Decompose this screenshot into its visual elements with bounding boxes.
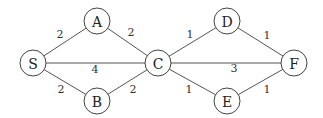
- edge-weight-a-c: 2: [128, 26, 135, 39]
- node-a: A: [84, 8, 110, 34]
- node-s: S: [20, 50, 46, 76]
- node-b: B: [84, 88, 110, 114]
- node-label: F: [289, 56, 299, 72]
- edge-weight-d-f: 1: [264, 29, 271, 42]
- edge-weight-s-c: 4: [92, 63, 99, 76]
- node-label: D: [221, 14, 232, 30]
- edge-weight-s-a: 2: [57, 28, 64, 41]
- node-label: B: [92, 94, 102, 110]
- node-c: C: [145, 50, 171, 76]
- edge-weight-c-f: 3: [231, 62, 238, 75]
- node-label: A: [91, 14, 103, 30]
- node-e: E: [214, 88, 240, 114]
- node-f: F: [281, 50, 307, 76]
- weighted-graph-diagram: 2242211311 SABCDEF: [0, 0, 323, 118]
- edge-weight-e-f: 1: [264, 83, 271, 96]
- nodes-layer: SABCDEF: [20, 8, 307, 114]
- edge-weight-b-c: 2: [130, 83, 137, 96]
- node-label: C: [153, 56, 164, 72]
- edge-weight-c-d: 1: [187, 28, 194, 41]
- node-d: D: [214, 8, 240, 34]
- edge-weight-s-b: 2: [58, 83, 65, 96]
- edge-weight-c-e: 1: [186, 83, 193, 96]
- node-label: E: [222, 94, 232, 110]
- node-label: S: [28, 56, 38, 72]
